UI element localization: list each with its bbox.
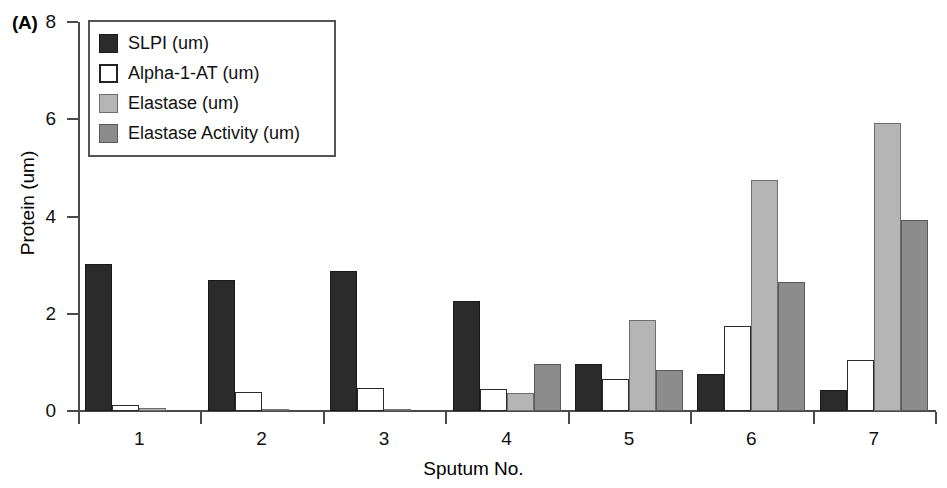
dark-gray-square-icon [99, 124, 118, 143]
legend-item-label: Alpha-1-AT (um) [128, 63, 259, 83]
x-tick-mark [690, 412, 692, 424]
x-axis-title: Sputum No. [0, 458, 947, 480]
x-tick-label: 1 [109, 428, 169, 450]
y-tick-mark [67, 118, 78, 120]
legend-item: Elastase (um) [99, 88, 325, 118]
black-filled-square-icon [99, 34, 118, 53]
bar [112, 405, 139, 411]
x-tick-label: 4 [477, 428, 537, 450]
x-tick-label: 3 [354, 428, 414, 450]
bar [262, 409, 289, 411]
y-tick-label: 0 [0, 401, 56, 420]
bar [357, 388, 384, 411]
x-tick-label: 2 [232, 428, 292, 450]
x-tick-mark [323, 412, 325, 424]
bar [85, 264, 112, 411]
bar [901, 220, 928, 411]
figure-panel-a: (A) 02468 1234567 Protein (um) Sputum No… [0, 0, 947, 488]
legend-item: Alpha-1-AT (um) [99, 58, 325, 88]
bar [139, 408, 166, 411]
legend-item-label: Elastase Activity (um) [128, 123, 300, 143]
light-gray-square-icon [99, 94, 118, 113]
bar [724, 326, 751, 411]
bar [235, 392, 262, 411]
x-tick-mark [200, 412, 202, 424]
bar [480, 389, 507, 411]
bar [778, 282, 805, 411]
y-tick-mark [67, 21, 78, 23]
legend-item: SLPI (um) [99, 28, 325, 58]
bar [656, 370, 683, 411]
legend-item-label: Elastase (um) [128, 93, 239, 113]
chart-legend: SLPI (um)Alpha-1-AT (um)Elastase (um)Ela… [88, 20, 336, 157]
bar [208, 280, 235, 411]
legend-item-label: SLPI (um) [128, 33, 209, 53]
bar [874, 123, 901, 411]
y-tick-mark [67, 410, 78, 412]
bar [575, 364, 602, 411]
bar [384, 409, 411, 411]
legend-item: Elastase Activity (um) [99, 118, 325, 148]
bar [847, 360, 874, 411]
x-tick-mark [568, 412, 570, 424]
y-tick-label: 8 [0, 12, 56, 31]
bar [820, 390, 847, 411]
x-tick-label: 6 [721, 428, 781, 450]
x-tick-label: 7 [844, 428, 904, 450]
bar [453, 301, 480, 411]
bar [507, 393, 534, 411]
bar [602, 379, 629, 411]
bar [534, 364, 561, 411]
x-tick-mark [813, 412, 815, 424]
white-open-square-icon [99, 64, 118, 83]
bar [751, 180, 778, 411]
y-axis-title: Protein (um) [17, 93, 39, 313]
bar [629, 320, 656, 411]
y-tick-mark [67, 216, 78, 218]
x-tick-mark [445, 412, 447, 424]
y-tick-mark [67, 313, 78, 315]
bar [330, 271, 357, 411]
x-tick-mark [935, 412, 937, 424]
x-tick-label: 5 [599, 428, 659, 450]
bar [697, 374, 724, 411]
x-tick-mark [78, 412, 80, 424]
